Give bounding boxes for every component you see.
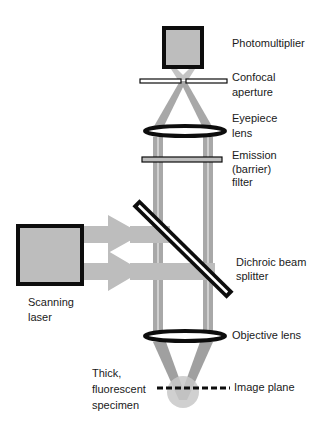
scanning-laser-box — [18, 226, 82, 284]
label-emission: Emission — [232, 149, 277, 161]
label-confocal: Confocal — [232, 71, 275, 83]
photomultiplier-box — [164, 28, 202, 67]
label-filter: filter — [232, 176, 253, 188]
label-photomultiplier: Photomultiplier — [232, 37, 305, 49]
label-lens: lens — [232, 127, 253, 139]
label-eyepiece: Eyepiece — [232, 112, 277, 124]
label-fluorescent: fluorescent — [92, 383, 146, 395]
specimen-spot — [167, 376, 199, 408]
label-laser: laser — [28, 311, 52, 323]
dichroic-beam-splitter — [132, 199, 233, 299]
label-image-plane: Image plane — [234, 381, 295, 393]
label-scanning: Scanning — [28, 296, 74, 308]
label-specimen: specimen — [92, 399, 139, 411]
laser-beams — [84, 215, 215, 291]
label-barrier: (barrier) — [232, 163, 271, 175]
label-dichroic: Dichroic beam — [236, 256, 306, 268]
label-aperture: aperture — [232, 86, 273, 98]
label-objective-lens: Objective lens — [232, 329, 302, 341]
label-splitter: splitter — [236, 270, 269, 282]
eyepiece-lens — [145, 126, 225, 136]
confocal-microscope-diagram: Photomultiplier Confocal aperture Eyepie… — [0, 0, 327, 427]
objective-lens — [145, 331, 225, 341]
label-thick: Thick, — [92, 367, 121, 379]
emission-filter — [142, 157, 222, 162]
